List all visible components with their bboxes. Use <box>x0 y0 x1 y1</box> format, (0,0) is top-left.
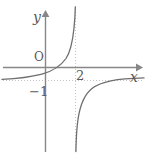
x-tick-label-2: 2 <box>76 69 84 82</box>
origin-label: O <box>34 51 44 63</box>
math-figure: y x O 2 −1 <box>0 0 146 159</box>
x-axis-label: x <box>130 70 138 84</box>
graph-canvas <box>0 0 146 159</box>
y-axis-arrowhead <box>42 10 50 17</box>
y-tick-label-minus-1: −1 <box>29 85 48 98</box>
y-axis-label: y <box>33 10 41 24</box>
curve-right-branch <box>76 78 144 152</box>
